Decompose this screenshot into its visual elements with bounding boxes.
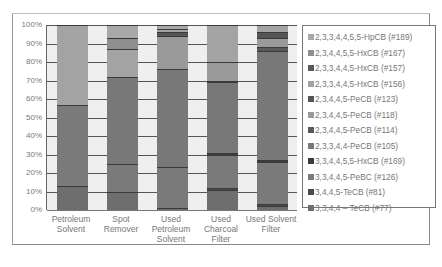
legend-swatch-icon <box>308 96 314 102</box>
bar-segment <box>207 188 238 190</box>
bar-spot-remover <box>107 25 138 210</box>
bar-segment <box>207 25 238 62</box>
bar-segment <box>257 47 288 51</box>
legend-item: 2,3,4,4,5-PeCB (#114) <box>308 123 435 139</box>
legend-swatch-icon <box>308 65 314 71</box>
bar-segment <box>207 190 238 210</box>
bar-segment <box>57 25 88 105</box>
bar-segment <box>157 25 188 29</box>
bar-segment <box>257 162 288 205</box>
legend-item: 2,3,3,4,4-PeCB (#105) <box>308 139 435 155</box>
legend-label: 2,3,4,4,5-PeCB (#118) <box>315 110 397 120</box>
bar-segment <box>257 32 288 38</box>
legend-item: 3,4,4,5-TeCB (#81) <box>308 185 435 201</box>
legend-item: 2,3,4,4,5,5-HxCB (#167) <box>308 46 435 62</box>
legend-label: 2,3,4,4,5,5-HxCB (#167) <box>315 48 405 58</box>
legend-label: 2,3,3,4,4,5,5-HpCB (#189) <box>315 32 412 42</box>
bar-segment <box>207 155 238 188</box>
bar-used-petroleum-solvent <box>157 25 188 210</box>
y-tick-label: 30% <box>8 150 42 159</box>
legend-item: 2,3,4,4,5-PeCB (#123) <box>308 92 435 108</box>
x-tick-label: Used SolventFilter <box>241 214 301 234</box>
bar-segment <box>107 77 138 164</box>
legend-item: 2,3,4,4,5-PeCB (#118) <box>308 108 435 124</box>
bar-segment <box>107 164 138 192</box>
bar-segment <box>157 32 188 36</box>
bar-segment <box>257 38 288 47</box>
bar-segment <box>57 105 88 186</box>
legend-swatch-icon <box>308 112 314 118</box>
bar-segment <box>257 204 288 206</box>
bar-segment <box>157 208 188 210</box>
legend-swatch-icon <box>308 143 314 149</box>
bar-segment <box>257 51 288 160</box>
legend-swatch-icon <box>308 189 314 195</box>
bar-segment <box>207 153 238 155</box>
y-tick-label: 10% <box>8 187 42 196</box>
legend-label: 2,3,3,4,4,5-HxCB (#156) <box>315 79 405 89</box>
bar-segment <box>107 49 138 77</box>
bar-segment <box>257 25 288 32</box>
bar-segment <box>257 206 288 210</box>
y-tick-label: 100% <box>8 20 42 29</box>
bar-segment <box>107 25 138 38</box>
y-tick-label: 90% <box>8 39 42 48</box>
legend-swatch-icon <box>308 127 314 133</box>
legend-swatch-icon <box>308 158 314 164</box>
legend-label: 3,3,4,4 – TeCB (#77) <box>315 203 391 213</box>
bar-segment <box>207 62 238 81</box>
x-axis-line <box>47 210 297 211</box>
bar-petroleum-solvent <box>57 25 88 210</box>
bar-segment <box>57 186 88 210</box>
legend-label: 3,3,4,4,5-PeBC (#126) <box>315 172 398 182</box>
legend-swatch-icon <box>308 174 314 180</box>
bar-segment <box>157 69 188 167</box>
bar-segment <box>107 38 138 49</box>
legend-label: 2,3,4,4,5-PeCB (#114) <box>315 125 397 135</box>
y-tick-label: 80% <box>8 57 42 66</box>
y-tick-label: 20% <box>8 168 42 177</box>
legend-item: 2,3,3,4,4,5,5-HpCB (#189) <box>308 30 435 46</box>
y-tick-label: 40% <box>8 131 42 140</box>
bar-segment <box>157 167 188 208</box>
legend-item: 3,3,4,4,5-PeBC (#126) <box>308 170 435 186</box>
legend-item: 3,3,4,4,5,5-HxCB (#169) <box>308 154 435 170</box>
plot-area <box>46 25 297 210</box>
legend-item: 3,3,4,4 – TeCB (#77) <box>308 201 435 217</box>
legend-label: 2,3,3,4,4,5-HxCB (#157) <box>315 63 405 73</box>
legend-swatch-icon <box>308 34 314 40</box>
bar-segment <box>157 36 188 69</box>
legend-item: 2,3,3,4,4,5-HxCB (#156) <box>308 77 435 93</box>
y-tick-label: 0% <box>8 205 42 214</box>
bar-segment <box>207 82 238 152</box>
bar-used-charcoal-filter <box>207 25 238 210</box>
legend-label: 3,4,4,5-TeCB (#81) <box>315 187 385 197</box>
legend-label: 3,3,4,4,5,5-HxCB (#169) <box>315 156 405 166</box>
legend-swatch-icon <box>308 205 314 211</box>
y-tick-label: 50% <box>8 113 42 122</box>
bar-segment <box>157 29 188 33</box>
bar-segment <box>207 81 238 83</box>
legend-item: 2,3,3,4,4,5-HxCB (#157) <box>308 61 435 77</box>
legend-swatch-icon <box>308 81 314 87</box>
y-tick-label: 60% <box>8 94 42 103</box>
legend-label: 2,3,3,4,4-PeCB (#105) <box>315 141 398 151</box>
bar-segment <box>107 192 138 211</box>
y-tick-label: 70% <box>8 76 42 85</box>
legend-label: 2,3,4,4,5-PeCB (#123) <box>315 94 398 104</box>
bar-used-solvent-filter <box>257 25 288 210</box>
legend: 2,3,3,4,4,5,5-HpCB (#189)2,3,4,4,5,5-HxC… <box>302 25 436 208</box>
bar-segment <box>257 160 288 162</box>
legend-swatch-icon <box>308 50 314 56</box>
